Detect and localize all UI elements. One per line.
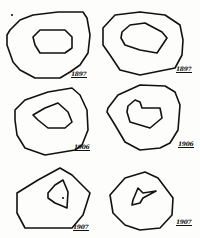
outer-boundary xyxy=(107,85,180,150)
year-label-figure-5: 1907 xyxy=(73,223,89,231)
year-label-figure-4: 1906 xyxy=(178,140,194,148)
inner-boundary xyxy=(132,188,156,205)
ink-speck xyxy=(11,14,13,16)
outer-boundary xyxy=(17,168,90,228)
inner-boundary xyxy=(33,103,72,128)
figure-1 xyxy=(7,12,90,78)
year-label-figure-2: 1897 xyxy=(176,65,192,73)
diagram-page: 1897 1897 1906 1906 1907 1907 xyxy=(0,0,200,238)
inner-boundary xyxy=(48,180,68,208)
figure-6 xyxy=(110,172,173,230)
figure-5 xyxy=(17,168,90,228)
inner-boundary xyxy=(127,100,162,128)
year-label-figure-3: 1906 xyxy=(74,143,90,151)
ink-speck xyxy=(62,197,64,199)
figure-2 xyxy=(103,12,183,75)
inner-boundary xyxy=(121,23,167,53)
year-label-figure-6: 1907 xyxy=(176,218,192,226)
figure-4 xyxy=(107,85,180,150)
year-label-figure-1: 1897 xyxy=(71,70,87,78)
cross-section-figures xyxy=(0,0,200,238)
inner-boundary xyxy=(33,30,72,53)
outer-boundary xyxy=(7,12,90,78)
outer-boundary xyxy=(103,12,183,75)
